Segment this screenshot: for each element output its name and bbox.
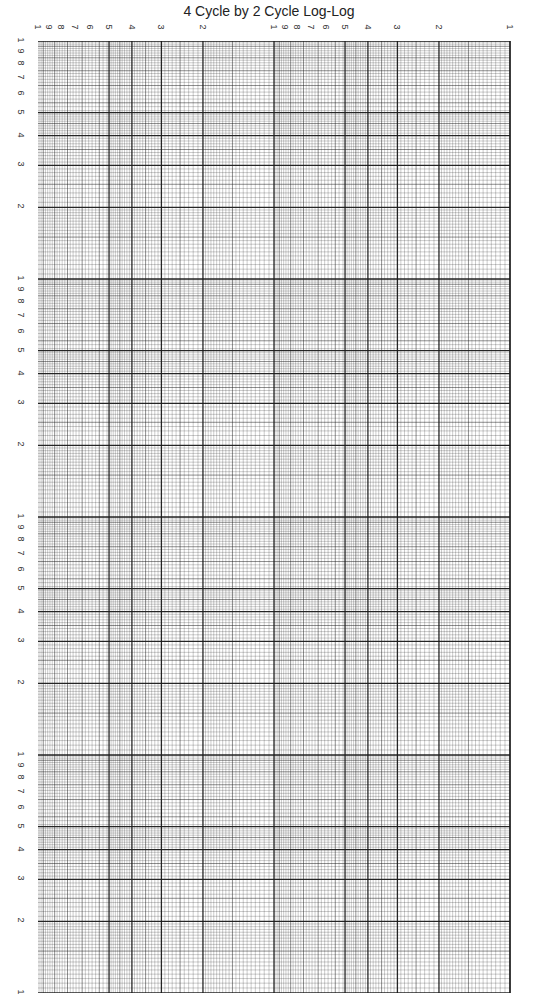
y-axis-label: 6 <box>16 88 26 98</box>
x-axis-label: 4 <box>127 22 137 32</box>
y-axis-label: 8 <box>16 296 26 306</box>
x-axis-label: 9 <box>280 22 290 32</box>
x-axis-label: 1 <box>269 22 279 32</box>
y-axis-label: 7 <box>16 548 26 558</box>
y-axis-label: 4 <box>16 368 26 378</box>
y-axis-label: 5 <box>16 107 26 117</box>
x-axis-label: 6 <box>85 22 95 32</box>
y-axis-label: 7 <box>16 310 26 320</box>
y-axis-label: 5 <box>16 345 26 355</box>
y-axis-label: 9 <box>16 284 26 294</box>
y-axis-label: 5 <box>16 583 26 593</box>
y-axis-label: 9 <box>16 522 26 532</box>
y-axis-label: 1 <box>16 511 26 521</box>
y-axis-label: 2 <box>16 439 26 449</box>
x-axis-label: 3 <box>392 22 402 32</box>
y-axis-label: 4 <box>16 844 26 854</box>
y-axis-label: 3 <box>16 159 26 169</box>
x-axis-label: 7 <box>306 22 316 32</box>
log-log-grid <box>38 41 511 993</box>
x-axis-label: 4 <box>363 22 373 32</box>
x-axis-label: 6 <box>321 22 331 32</box>
y-axis-label: 4 <box>16 130 26 140</box>
y-axis-label: 2 <box>16 915 26 925</box>
x-axis-label: 2 <box>198 22 208 32</box>
y-axis-label: 1 <box>16 35 26 45</box>
x-axis-label: 5 <box>104 22 114 32</box>
x-axis-label: 8 <box>56 22 66 32</box>
y-axis-label: 6 <box>16 564 26 574</box>
x-axis-label: 2 <box>434 22 444 32</box>
y-axis-label: 6 <box>16 326 26 336</box>
y-axis-label: 3 <box>16 635 26 645</box>
y-axis-label: 9 <box>16 46 26 56</box>
y-axis-label: 7 <box>16 72 26 82</box>
y-axis-label: 7 <box>16 786 26 796</box>
y-axis-label: 8 <box>16 58 26 68</box>
x-axis-label: 9 <box>44 22 54 32</box>
x-axis-label: 1 <box>33 22 43 32</box>
y-axis-label: 3 <box>16 873 26 883</box>
y-axis-label: 3 <box>16 397 26 407</box>
x-axis-label: 1 <box>505 22 515 32</box>
y-axis-label: 8 <box>16 772 26 782</box>
y-axis-label: 1 <box>16 273 26 283</box>
y-axis-label: 1 <box>16 987 26 996</box>
page-title: 4 Cycle by 2 Cycle Log-Log <box>0 3 538 19</box>
y-axis-label: 2 <box>16 201 26 211</box>
y-axis-label: 9 <box>16 760 26 770</box>
y-axis-label: 2 <box>16 677 26 687</box>
y-axis-label: 5 <box>16 821 26 831</box>
y-axis-label: 1 <box>16 749 26 759</box>
y-axis-label: 6 <box>16 802 26 812</box>
y-axis-label: 8 <box>16 534 26 544</box>
y-axis-label: 4 <box>16 606 26 616</box>
x-axis-label: 5 <box>340 22 350 32</box>
x-axis-label: 7 <box>70 22 80 32</box>
x-axis-label: 3 <box>156 22 166 32</box>
x-axis-label: 8 <box>292 22 302 32</box>
